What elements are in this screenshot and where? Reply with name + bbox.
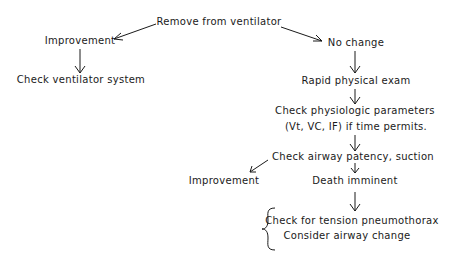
arrow-improvement-to-check-ventilator: [75, 49, 85, 73]
node-improvement-bottom: Improvement: [189, 175, 260, 187]
node-check-airway-patency: Check airway patency, suction: [272, 151, 434, 163]
arrow-physiologic-to-airway: [350, 135, 360, 151]
node-consider-airway-change: Consider airway change: [283, 230, 410, 242]
node-rapid-physical-exam: Rapid physical exam: [301, 75, 410, 87]
arrow-no-change-to-rapid-exam: [350, 51, 360, 73]
node-no-change: No change: [328, 37, 384, 49]
node-remove-from-ventilator: Remove from ventilator: [157, 16, 282, 28]
node-check-tension-pneumothorax: Check for tension pneumothorax: [265, 215, 438, 227]
node-check-ventilator-system: Check ventilator system: [17, 74, 145, 86]
arrow-remove-to-no-change: [281, 27, 322, 41]
arrow-rapid-exam-to-physiologic: [350, 89, 360, 104]
node-check-physiologic-line1: Check physiologic parameters: [275, 105, 435, 117]
node-check-physiologic-line2: (Vt, VC, IF) if time permits.: [285, 121, 427, 133]
arrow-death-imminent-to-final-actions: [350, 192, 360, 211]
arrow-airway-to-improvement: [250, 160, 268, 172]
arrow-airway-to-death-imminent: [351, 163, 359, 173]
node-death-imminent: Death imminent: [312, 175, 397, 187]
arrow-remove-to-improvement: [114, 24, 156, 40]
node-improvement-top: Improvement: [45, 35, 116, 47]
